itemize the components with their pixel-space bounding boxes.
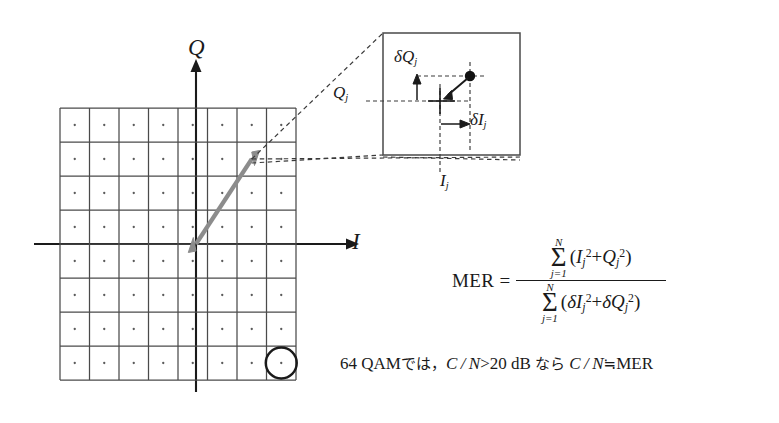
inset-ij-label: Ij	[440, 172, 449, 191]
constellation-grid	[60, 108, 296, 380]
mer-fraction: N Σ j=1 (Ij2+Qj2) N Σ j=1 (δIj2+δQj2)	[516, 236, 666, 325]
constellation-point	[221, 192, 223, 194]
inset-delta-q-base: δQ	[394, 47, 414, 66]
constellation-point	[192, 192, 194, 194]
constellation-point	[74, 192, 76, 194]
magnitude-vector-arrow	[188, 151, 259, 253]
constellation-point	[251, 362, 253, 364]
constellation-point	[162, 226, 164, 228]
constellation-point	[74, 294, 76, 296]
constellation-point	[103, 362, 105, 364]
numerator-summation-symbol: N Σ j=1	[551, 237, 567, 279]
inset-delta-i-arrow	[441, 120, 470, 128]
note-greater-than: >	[480, 354, 490, 373]
note-condition-cn: C / N	[446, 354, 480, 373]
constellation-point	[251, 226, 253, 228]
constellation-point	[103, 328, 105, 330]
constellation-point	[221, 362, 223, 364]
constellation-point	[133, 158, 135, 160]
axis-group	[34, 59, 359, 392]
constellation-point	[192, 226, 194, 228]
constellation-point	[192, 294, 194, 296]
constellation-point	[162, 294, 164, 296]
inset-delta-i-label: δIj	[470, 111, 487, 130]
note-jp-nara: なら	[535, 355, 565, 373]
constellation-point	[251, 328, 253, 330]
constellation-point	[221, 260, 223, 262]
constellation-point	[74, 362, 76, 364]
numerator-sigma-glyph: Σ	[551, 246, 567, 269]
inset-delta-i-subscript: j	[484, 119, 487, 130]
constellation-point	[251, 192, 253, 194]
constellation-point	[162, 124, 164, 126]
constellation-point	[162, 192, 164, 194]
constellation-point	[280, 158, 282, 160]
inset-qj-base: Q	[333, 83, 345, 102]
note-prefix: 64 QAM	[340, 354, 401, 373]
constellation-point	[221, 158, 223, 160]
constellation-point	[133, 328, 135, 330]
constellation-point	[280, 260, 282, 262]
mer-formula: MER = N Σ j=1 (Ij2+Qj2) N Σ j=1 (δIj2+δQ…	[452, 236, 666, 325]
inset-delta-i-base: δI	[470, 110, 484, 129]
constellation-point	[74, 226, 76, 228]
constellation-point	[162, 362, 164, 364]
constellation-point	[221, 226, 223, 228]
denominator-sigma-lower-limit: j=1	[542, 313, 558, 324]
constellation-point	[280, 226, 282, 228]
denominator-paren-close: )	[634, 291, 640, 312]
note-approx-sign: ≒	[604, 355, 617, 373]
constellation-point	[74, 158, 76, 160]
magnitude-vector-shaft	[196, 159, 252, 244]
constellation-point	[192, 362, 194, 364]
constellation-point	[192, 328, 194, 330]
explanatory-note: 64 QAMでは，C / N>20 dB なら C / N≒MER	[340, 352, 653, 374]
mer-formula-name: MER	[452, 270, 494, 292]
constellation-point	[103, 294, 105, 296]
constellation-point	[251, 260, 253, 262]
q-axis-label: Q	[188, 36, 205, 59]
constellation-point	[192, 124, 194, 126]
q-axis-arrowhead	[191, 59, 202, 72]
inset-ij-subscript: j	[446, 180, 449, 191]
inset-error-vector-arrowhead	[444, 91, 453, 100]
constellation-point	[280, 328, 282, 330]
constellation-point	[162, 328, 164, 330]
constellation-point	[74, 328, 76, 330]
constellation-point	[192, 260, 194, 262]
constellation-point	[221, 124, 223, 126]
numerator-paren-close: )	[625, 246, 631, 267]
denominator-plus: +	[592, 291, 603, 312]
inset-qj-subscript: j	[345, 92, 348, 103]
constellation-point	[251, 124, 253, 126]
constellation-point	[74, 124, 76, 126]
callout-line-top	[252, 33, 383, 159]
note-jp-dewa: では，	[401, 355, 446, 373]
callout-line-bottom-c	[383, 157, 520, 160]
constellation-point	[280, 294, 282, 296]
constellation-point	[103, 158, 105, 160]
constellation-point	[280, 124, 282, 126]
inset-delta-i-arrowhead	[460, 120, 470, 128]
note-threshold-value: 20	[490, 354, 507, 373]
constellation-point	[133, 294, 135, 296]
constellation-point	[251, 294, 253, 296]
constellation-point	[133, 192, 135, 194]
inset-error-vector	[444, 78, 469, 100]
callout-lines	[252, 33, 520, 163]
constellation-point	[192, 158, 194, 160]
note-result-mer: MER	[616, 354, 653, 373]
denominator-term1-base: δI	[567, 291, 582, 312]
constellation-point	[221, 294, 223, 296]
inset-delta-q-arrow	[413, 74, 421, 100]
constellation-point	[133, 362, 135, 364]
constellation-point	[133, 124, 135, 126]
mer-denominator: N Σ j=1 (δIj2+δQj2)	[536, 281, 646, 325]
numerator-plus: +	[592, 246, 603, 267]
inset-delta-q-label: δQj	[394, 48, 417, 67]
note-threshold-unit: dB	[511, 354, 531, 373]
note-result-cn: C / N	[569, 354, 603, 373]
constellation-point	[280, 362, 282, 364]
constellation-point	[280, 192, 282, 194]
constellation-point	[74, 260, 76, 262]
